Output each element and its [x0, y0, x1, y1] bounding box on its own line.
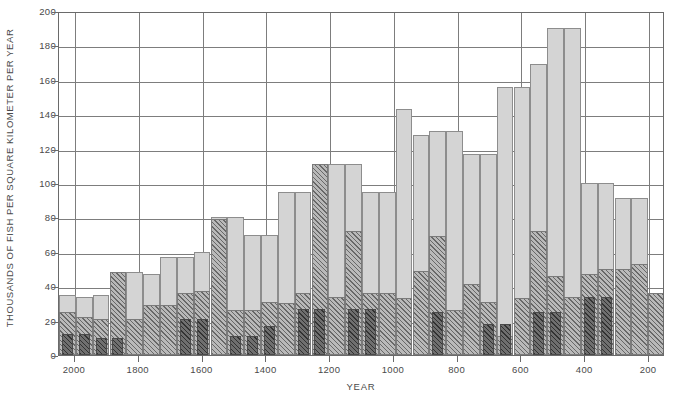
- x-axis-tick-label: 1600: [190, 364, 212, 375]
- bar-segment-bottom: [264, 326, 275, 355]
- bar-segment-bottom: [314, 309, 325, 355]
- bar-segment-middle: [413, 271, 430, 355]
- bar-segment-middle: [514, 298, 531, 355]
- bar-segment-middle: [143, 305, 160, 355]
- x-axis-tick: [648, 356, 649, 362]
- bar-column: [514, 12, 531, 355]
- bar-column: [261, 12, 278, 355]
- bar-column: [126, 12, 143, 355]
- bar-segment-middle: [463, 284, 480, 355]
- x-axis-tick: [138, 356, 139, 362]
- bar-column: [413, 12, 430, 355]
- bar-column: [143, 12, 160, 355]
- bar-segment-bottom: [180, 319, 191, 355]
- bar-segment-middle: [211, 219, 228, 355]
- bar-column: [93, 12, 110, 355]
- bar-column: [76, 12, 93, 355]
- bar-column: [547, 12, 564, 355]
- bar-segment-bottom: [584, 297, 595, 355]
- x-axis-tick: [265, 356, 266, 362]
- x-axis-tick-label: 1200: [318, 364, 340, 375]
- x-axis-tick-label: 200: [640, 364, 657, 375]
- y-axis-tick: [52, 356, 58, 357]
- x-axis-tick: [584, 356, 585, 362]
- bar-segment-middle: [564, 297, 581, 355]
- bar-column: [194, 12, 211, 355]
- bar-column: [396, 12, 413, 355]
- bar-column: [160, 12, 177, 355]
- bar-column: [295, 12, 312, 355]
- bar-column: [480, 12, 497, 355]
- bar-column: [312, 12, 329, 355]
- x-axis-tick-label: 2000: [63, 364, 85, 375]
- chart-root: THOUSANDS OF FISH PER SQUARE KILOMETER P…: [0, 0, 676, 398]
- bar-column: [530, 12, 547, 355]
- bar-column: [379, 12, 396, 355]
- bar-column: [631, 12, 648, 355]
- bar-column: [446, 12, 463, 355]
- bar-column: [362, 12, 379, 355]
- bar-segment-bottom: [432, 312, 443, 355]
- bar-segment-bottom: [79, 334, 90, 355]
- bar-segment-middle: [615, 269, 632, 355]
- bar-column: [211, 12, 228, 355]
- bar-segment-middle: [126, 319, 143, 355]
- x-axis-title: YEAR: [58, 381, 664, 392]
- bar-column: [227, 12, 244, 355]
- bar-column: [345, 12, 362, 355]
- x-axis-tick: [393, 356, 394, 362]
- bar-column: [59, 12, 76, 355]
- bar-segment-middle: [648, 293, 664, 355]
- bar-segment-bottom: [230, 336, 241, 355]
- bar-segment-middle: [160, 305, 177, 355]
- x-axis-tick: [74, 356, 75, 362]
- x-axis-tick-label: 400: [576, 364, 593, 375]
- x-axis-tick-label: 1800: [127, 364, 149, 375]
- bar-segment-middle: [396, 298, 413, 355]
- bar-segment-middle: [631, 264, 648, 355]
- x-axis-tick: [329, 356, 330, 362]
- bar-segment-middle: [379, 293, 396, 355]
- bar-segment-bottom: [62, 334, 73, 355]
- x-axis-tick: [520, 356, 521, 362]
- bar-column: [463, 12, 480, 355]
- bar-column: [615, 12, 632, 355]
- bar-segment-bottom: [96, 338, 107, 355]
- x-axis-tick-label: 1000: [382, 364, 404, 375]
- bar-segment-bottom: [550, 312, 561, 355]
- bar-segment-bottom: [247, 336, 258, 355]
- bar-segment-bottom: [533, 312, 544, 355]
- bar-segment-middle: [446, 310, 463, 355]
- bar-column: [278, 12, 295, 355]
- bar-column: [244, 12, 261, 355]
- bar-segment-bottom: [601, 297, 612, 355]
- bar-column: [429, 12, 446, 355]
- bar-column: [564, 12, 581, 355]
- bar-segment-middle: [328, 297, 345, 355]
- bar-segment-bottom: [483, 324, 494, 355]
- bar-column: [328, 12, 345, 355]
- bar-segment-top: [497, 87, 514, 355]
- bar-segment-bottom: [197, 319, 208, 355]
- bar-column: [110, 12, 127, 355]
- x-axis-tick-label: 600: [512, 364, 529, 375]
- bar-segment-bottom: [348, 309, 359, 355]
- bar-segment-middle: [278, 303, 295, 355]
- bar-segment-bottom: [365, 309, 376, 355]
- bar-column: [497, 12, 514, 355]
- plot-area: [58, 12, 664, 356]
- bar-column: [177, 12, 194, 355]
- bar-column: [581, 12, 598, 355]
- bar-column: [598, 12, 615, 355]
- x-axis-tick: [457, 356, 458, 362]
- x-axis-tick-label: 800: [448, 364, 465, 375]
- bar-column: [648, 12, 664, 355]
- bar-segment-bottom: [112, 338, 123, 355]
- bar-segment-bottom: [298, 309, 309, 355]
- x-axis-tick: [202, 356, 203, 362]
- x-axis-tick-label: 1400: [254, 364, 276, 375]
- bar-segment-bottom: [500, 324, 511, 355]
